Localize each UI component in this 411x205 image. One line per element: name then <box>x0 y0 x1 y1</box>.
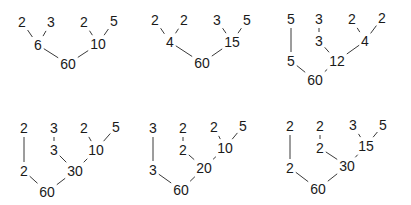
tree-node: 10 <box>217 140 233 156</box>
tree-node: 3 <box>149 120 157 136</box>
tree-node: 2 <box>286 160 294 176</box>
tree-node: 5 <box>379 117 387 133</box>
tree-node: 2 <box>18 14 26 30</box>
tree-node: 2 <box>316 140 324 156</box>
tree-root-node: 60 <box>194 55 210 71</box>
tree-node: 2 <box>151 12 159 28</box>
tree-node: 10 <box>88 142 104 158</box>
tree-node: 5 <box>239 118 247 134</box>
tree-node: 3 <box>315 33 323 49</box>
tree-root-node: 60 <box>173 182 189 198</box>
tree-node: 5 <box>243 12 251 28</box>
tree-node: 4 <box>361 33 369 49</box>
tree-root-node: 60 <box>307 72 323 88</box>
tree-node: 20 <box>196 160 212 176</box>
factor-tree-diagram: 2362510602243515605533224126022332510306… <box>0 0 411 205</box>
tree-node: 3 <box>47 14 55 30</box>
tree-node: 15 <box>358 138 374 154</box>
tree-node: 3 <box>149 162 157 178</box>
tree-node: 5 <box>112 119 120 135</box>
tree-node: 3 <box>315 11 323 27</box>
tree-node: 3 <box>50 142 58 158</box>
tree-node: 2 <box>179 120 187 136</box>
tree-node: 6 <box>34 37 42 53</box>
tree-node: 5 <box>110 13 118 29</box>
tree-node: 2 <box>20 163 28 179</box>
tree-node: 2 <box>180 12 188 28</box>
tree-node: 12 <box>329 53 345 69</box>
tree-node: 2 <box>286 118 294 134</box>
tree-node: 3 <box>349 117 357 133</box>
tree-node: 2 <box>316 118 324 134</box>
tree-node: 30 <box>67 163 83 179</box>
tree-node: 2 <box>378 10 386 26</box>
tree-node: 30 <box>339 158 355 174</box>
tree-node: 5 <box>287 53 295 69</box>
tree-root-node: 60 <box>310 181 326 197</box>
tree-root-node: 60 <box>60 56 76 72</box>
tree-node: 2 <box>80 14 88 30</box>
tree-node: 2 <box>20 120 28 136</box>
tree-node: 10 <box>90 36 106 52</box>
tree-node: 2 <box>80 120 88 136</box>
tree-node: 2 <box>210 119 218 135</box>
tree-node: 15 <box>224 34 240 50</box>
tree-node: 3 <box>213 12 221 28</box>
tree-node: 3 <box>50 120 58 136</box>
tree-node: 5 <box>287 11 295 27</box>
tree-node: 2 <box>348 11 356 27</box>
tree-node: 2 <box>179 142 187 158</box>
tree-root-node: 60 <box>39 184 55 200</box>
tree-node: 4 <box>166 34 174 50</box>
